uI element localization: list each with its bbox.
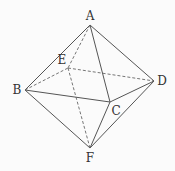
vertex-label-C: C xyxy=(111,104,120,118)
vertex-label-E: E xyxy=(58,53,67,67)
edge-CD xyxy=(110,81,154,102)
octahedron-diagram: A B C D E F xyxy=(0,0,175,171)
edge-CF xyxy=(90,102,110,148)
edge-BE xyxy=(25,68,68,90)
vertex-label-B: B xyxy=(13,83,22,97)
edge-AE xyxy=(68,25,90,68)
diagram-canvas: A B C D E F xyxy=(0,0,175,171)
vertex-label-A: A xyxy=(85,9,95,23)
edge-BC xyxy=(25,90,110,102)
edge-BF xyxy=(25,90,90,148)
edge-DF xyxy=(90,81,154,148)
vertex-label-F: F xyxy=(86,151,94,165)
edge-EF xyxy=(68,68,90,148)
vertex-label-D: D xyxy=(157,74,167,88)
edge-AC xyxy=(90,25,110,102)
